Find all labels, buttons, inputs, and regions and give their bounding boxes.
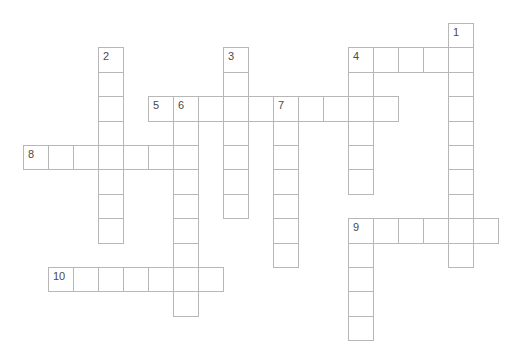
crossword-cell[interactable] <box>223 145 249 170</box>
crossword-cell[interactable] <box>273 243 299 268</box>
crossword-cell[interactable]: 8 <box>23 145 49 170</box>
cell-number: 10 <box>53 270 65 283</box>
crossword-cell[interactable] <box>448 169 474 194</box>
crossword-cell[interactable] <box>398 218 424 243</box>
crossword-cell[interactable] <box>98 145 124 170</box>
crossword-cell[interactable] <box>148 145 174 170</box>
crossword-cell[interactable] <box>48 145 74 170</box>
crossword-cell[interactable] <box>98 267 124 292</box>
crossword-cell[interactable] <box>348 316 374 341</box>
crossword-cell[interactable] <box>448 47 474 72</box>
crossword-cell[interactable] <box>98 169 124 194</box>
cell-number: 3 <box>228 50 234 63</box>
crossword-cell[interactable] <box>223 169 249 194</box>
crossword-cell[interactable]: 9 <box>348 218 374 243</box>
crossword-cell[interactable] <box>348 243 374 268</box>
crossword-cell[interactable] <box>198 96 224 121</box>
crossword-cell[interactable] <box>148 267 174 292</box>
crossword-cell[interactable] <box>98 218 124 243</box>
crossword-cell[interactable] <box>423 218 449 243</box>
cell-number: 1 <box>453 26 459 39</box>
crossword-cell[interactable] <box>298 96 324 121</box>
cell-number: 4 <box>353 50 359 63</box>
page: 12345678910 <box>0 0 518 357</box>
crossword-cell[interactable] <box>123 145 149 170</box>
crossword-cell[interactable] <box>373 218 399 243</box>
crossword-cell[interactable] <box>173 291 199 316</box>
crossword-cell[interactable] <box>273 169 299 194</box>
cell-number: 8 <box>28 148 34 161</box>
crossword-cell[interactable] <box>173 169 199 194</box>
crossword-cell[interactable] <box>73 145 99 170</box>
crossword-cell[interactable] <box>448 194 474 219</box>
crossword-cell[interactable]: 6 <box>173 96 199 121</box>
crossword-cell[interactable] <box>448 72 474 97</box>
crossword-cell[interactable]: 4 <box>348 47 374 72</box>
cell-number: 5 <box>153 99 159 112</box>
cell-number: 7 <box>278 99 284 112</box>
crossword-cell[interactable] <box>173 218 199 243</box>
crossword-cell[interactable] <box>98 121 124 146</box>
cell-number: 6 <box>178 99 184 112</box>
crossword-cell[interactable] <box>348 291 374 316</box>
crossword-cell[interactable]: 1 <box>448 23 474 48</box>
crossword-cell[interactable] <box>223 72 249 97</box>
crossword-cell[interactable] <box>348 145 374 170</box>
crossword-cell[interactable] <box>98 194 124 219</box>
crossword-cell[interactable] <box>373 47 399 72</box>
crossword-cell[interactable] <box>98 96 124 121</box>
crossword-cell[interactable] <box>273 145 299 170</box>
crossword-cell[interactable] <box>173 267 199 292</box>
crossword-cell[interactable] <box>273 121 299 146</box>
crossword-cell[interactable] <box>173 243 199 268</box>
crossword-cell[interactable]: 10 <box>48 267 74 292</box>
crossword-cell[interactable]: 3 <box>223 47 249 72</box>
crossword-cell[interactable] <box>223 96 249 121</box>
crossword-cell[interactable] <box>273 218 299 243</box>
crossword-cell[interactable] <box>98 72 124 97</box>
crossword-cell[interactable] <box>448 218 474 243</box>
crossword-cell[interactable] <box>448 243 474 268</box>
crossword-cell[interactable] <box>223 121 249 146</box>
crossword-cell[interactable] <box>173 121 199 146</box>
crossword-cell[interactable] <box>123 267 149 292</box>
crossword-cell[interactable] <box>348 121 374 146</box>
crossword-cell[interactable] <box>273 194 299 219</box>
crossword-cell[interactable]: 7 <box>273 96 299 121</box>
crossword-cell[interactable] <box>423 47 449 72</box>
cell-number: 9 <box>353 221 359 234</box>
crossword-cell[interactable] <box>448 121 474 146</box>
crossword-cell[interactable] <box>348 169 374 194</box>
crossword-cell[interactable] <box>473 218 499 243</box>
crossword-cell[interactable] <box>348 96 374 121</box>
crossword-cell[interactable] <box>323 96 349 121</box>
cell-number: 2 <box>103 50 109 63</box>
crossword-cell[interactable] <box>348 267 374 292</box>
crossword-cell[interactable]: 2 <box>98 47 124 72</box>
crossword-cell[interactable] <box>223 194 249 219</box>
crossword-cell[interactable] <box>198 267 224 292</box>
crossword-cell[interactable] <box>448 145 474 170</box>
crossword-cell[interactable] <box>448 96 474 121</box>
crossword-cell[interactable]: 5 <box>148 96 174 121</box>
crossword-cell[interactable] <box>248 96 274 121</box>
crossword-cell[interactable] <box>398 47 424 72</box>
crossword-cell[interactable] <box>373 96 399 121</box>
crossword-cell[interactable] <box>173 194 199 219</box>
crossword-cell[interactable] <box>348 72 374 97</box>
crossword-cell[interactable] <box>73 267 99 292</box>
crossword-cell[interactable] <box>173 145 199 170</box>
crossword-grid: 12345678910 <box>0 0 518 357</box>
